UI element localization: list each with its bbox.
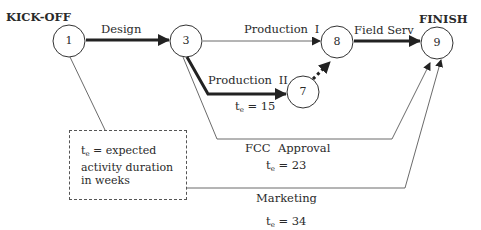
production-1-label: Production I bbox=[244, 24, 319, 36]
legend-line-1: te = expected bbox=[81, 144, 173, 161]
legend-box: te = expected activity duration in weeks bbox=[69, 130, 187, 200]
node-8-label: 8 bbox=[327, 36, 347, 47]
legend-text: te = expected activity duration in weeks bbox=[81, 144, 173, 187]
production-2-duration: te = 15 bbox=[235, 101, 275, 114]
marketing-label: Marketing bbox=[256, 193, 317, 205]
legend-line-2: activity duration bbox=[81, 161, 173, 174]
finish-label: FINISH bbox=[419, 14, 468, 26]
legend-line-3: in weeks bbox=[81, 174, 173, 187]
edge-dummy-7-8 bbox=[313, 62, 330, 79]
node-3-label: 3 bbox=[176, 35, 196, 46]
te-value: = 34 bbox=[275, 214, 307, 228]
edge-marketing-start bbox=[70, 57, 105, 130]
marketing-duration: te = 34 bbox=[266, 216, 306, 229]
fcc-approval-label: FCC Approval bbox=[245, 143, 330, 155]
node-9-label: 9 bbox=[427, 37, 447, 48]
production-2-label: Production II bbox=[208, 75, 288, 87]
node-1-label: 1 bbox=[59, 35, 79, 46]
legend-definition: = expected bbox=[90, 144, 157, 157]
fcc-approval-duration: te = 23 bbox=[266, 160, 306, 173]
kickoff-label: KICK-OFF bbox=[6, 12, 71, 24]
field-serv-label: Field Serv bbox=[354, 25, 414, 37]
node-7-label: 7 bbox=[293, 86, 313, 97]
te-value: = 15 bbox=[244, 99, 276, 113]
design-label: Design bbox=[101, 24, 141, 36]
te-value: = 23 bbox=[275, 158, 307, 172]
